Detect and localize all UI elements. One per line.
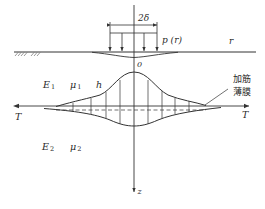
- tension-left-label: T: [15, 111, 22, 122]
- radial-axis-label: r: [229, 36, 234, 46]
- origin-label: 0: [137, 60, 142, 69]
- tension-left-arrow-icon: [13, 104, 19, 108]
- tension-right-label: T: [242, 109, 249, 120]
- width-label: 2δ: [137, 13, 149, 23]
- load-label: p (r): [162, 35, 182, 45]
- lower-modulus-label: E2: [41, 141, 54, 153]
- ground-hatch-icon: [15, 53, 40, 57]
- upper-poisson-label: μ1: [70, 79, 81, 91]
- membrane-diagram: z 2δ p (r) r 0 E1 μ1 h T T 加筋: [0, 0, 265, 209]
- surface-deflection-curve: [92, 52, 178, 57]
- membrane-label-line1: 加筋: [233, 73, 251, 84]
- upper-modulus-label: E1: [42, 79, 55, 91]
- lower-poisson-label: μ2: [70, 141, 81, 153]
- membrane-label-line2: 薄膜: [233, 86, 251, 97]
- depth-axis-label: z: [137, 187, 143, 196]
- membrane-hatch-lines: [73, 80, 189, 124]
- thickness-label: h: [96, 79, 102, 90]
- membrane-leader-line: [205, 89, 228, 105]
